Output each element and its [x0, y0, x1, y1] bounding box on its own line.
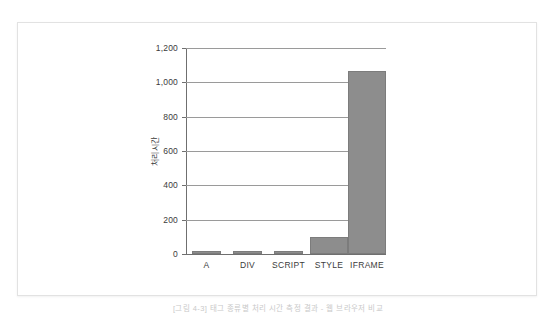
bar-div — [233, 251, 262, 254]
bar-iframe — [348, 71, 386, 254]
figure-frame: 1,200 1,000 800 600 400 200 0 처리시간 A DIV… — [17, 22, 537, 296]
x-tick-label-a: A — [204, 260, 210, 270]
y-tick-800 — [182, 117, 186, 118]
x-tick-label-script: SCRIPT — [272, 260, 305, 270]
y-tick-1200 — [182, 48, 186, 49]
bar-a — [192, 251, 221, 254]
y-tick-1000 — [182, 82, 186, 83]
gridline-1200 — [186, 48, 386, 49]
y-tick-label-0: 0 — [173, 249, 178, 259]
y-tick-label-600: 600 — [163, 146, 178, 156]
axis-baseline — [186, 254, 386, 255]
y-tick-label-800: 800 — [163, 112, 178, 122]
x-tick-label-div: DIV — [240, 260, 255, 270]
y-tick-600 — [182, 151, 186, 152]
y-tick-label-200: 200 — [163, 215, 178, 225]
y-tick-400 — [182, 185, 186, 186]
y-tick-label-1200: 1,200 — [156, 43, 178, 53]
x-tick-label-iframe: IFRAME — [350, 260, 384, 270]
y-axis-title: 처리시간 — [149, 136, 160, 166]
y-tick-0 — [182, 254, 186, 255]
figure-caption: [그림 4-3] 태그 종류별 처리 시간 측정 결과 - 웹 브라우저 비교 — [0, 302, 556, 313]
y-tick-200 — [182, 220, 186, 221]
y-tick-label-1000: 1,000 — [156, 77, 178, 87]
plot-area: 1,200 1,000 800 600 400 200 0 처리시간 A DIV… — [186, 48, 386, 254]
bar-style — [310, 237, 348, 254]
bar-script — [274, 251, 303, 254]
x-tick-label-style: STYLE — [315, 260, 343, 270]
y-tick-label-400: 400 — [163, 180, 178, 190]
